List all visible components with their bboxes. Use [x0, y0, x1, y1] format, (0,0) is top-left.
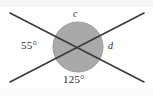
angle-label-right-d: d	[108, 41, 113, 51]
angle-label-top-c: c	[73, 9, 77, 19]
angle-label-bottom: 125°	[63, 74, 85, 85]
figure-canvas: 55° 125° c d	[0, 0, 153, 96]
angle-label-left: 55°	[21, 40, 37, 51]
